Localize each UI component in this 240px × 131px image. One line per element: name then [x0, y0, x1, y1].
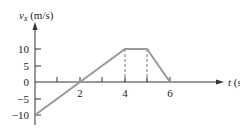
velocity-time-chart: 10 5 0 −5 −10 2 4 6 vx (m/s) t (s)	[0, 0, 240, 131]
y-axis-label: vx (m/s)	[19, 9, 54, 23]
x-axis-label: t (s)	[228, 76, 240, 89]
xtick-label: 6	[167, 87, 173, 99]
xtick-label: 4	[122, 87, 128, 99]
ytick-label: 5	[24, 60, 30, 72]
x-ticks	[57, 77, 170, 82]
ytick-label: −5	[17, 93, 29, 105]
y-axis-arrow-icon	[33, 22, 38, 30]
xtick-label: 2	[77, 87, 83, 99]
ytick-label: −10	[12, 109, 30, 121]
ytick-label: 0	[24, 76, 30, 88]
ytick-label: 10	[18, 43, 30, 55]
x-axis-arrow-icon	[216, 80, 224, 85]
